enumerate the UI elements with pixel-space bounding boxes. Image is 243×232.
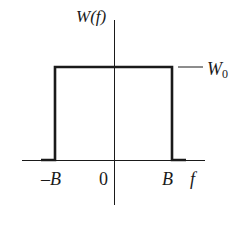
- spectrum-curve: [41, 67, 186, 160]
- tick-label-zero: 0: [99, 169, 108, 189]
- y-axis-label: W(f): [76, 7, 107, 26]
- spectrum-plot: W(f) W0 –B 0 B f: [0, 0, 243, 232]
- x-axis-label: f: [190, 169, 198, 189]
- tick-label-neg-b: –B: [40, 169, 61, 189]
- tick-label-pos-b: B: [162, 169, 173, 189]
- w0-label: W0: [207, 59, 228, 81]
- spectrum-figure: W(f) W0 –B 0 B f: [0, 0, 243, 232]
